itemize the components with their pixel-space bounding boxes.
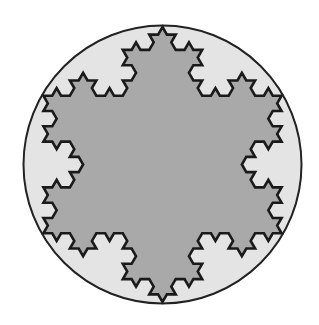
koch-snowflake-diagram (0, 0, 319, 325)
